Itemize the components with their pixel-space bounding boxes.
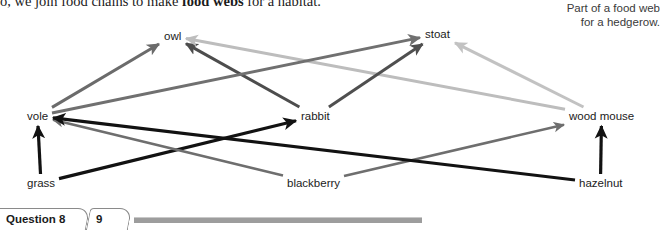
food-web-arrows (0, 0, 668, 205)
arrow-wood-mouse-to-stoat (455, 43, 584, 107)
arrow-hazelnut-to-wood-mouse (601, 126, 602, 174)
node-label-grass: grass (26, 177, 56, 189)
tab-question-8-label: Question 8 (6, 211, 65, 227)
arrow-blackberry-to-wood-mouse (344, 125, 564, 176)
tab-question-9-label: 9 (96, 211, 102, 227)
food-web-diagram: owlstoatvolerabbitwood mousegrassblackbe… (0, 0, 668, 205)
node-label-stoat: stoat (424, 28, 451, 40)
node-label-vole: vole (26, 110, 49, 122)
node-label-blackberry: blackberry (286, 177, 341, 189)
node-label-wood-mouse: wood mouse (568, 110, 635, 122)
tab-question-9[interactable] (86, 208, 132, 230)
tab-bar-rule (134, 217, 422, 223)
question-navigation-bar: Question 8 9 (0, 202, 668, 232)
node-label-owl: owl (163, 30, 182, 42)
arrow-vole-to-owl (52, 44, 159, 107)
arrow-blackberry-to-vole (53, 120, 283, 176)
arrow-hazelnut-to-vole (53, 118, 575, 180)
node-label-rabbit: rabbit (300, 110, 331, 122)
arrow-grass-to-vole (38, 126, 41, 174)
node-label-hazelnut: hazelnut (578, 177, 623, 189)
